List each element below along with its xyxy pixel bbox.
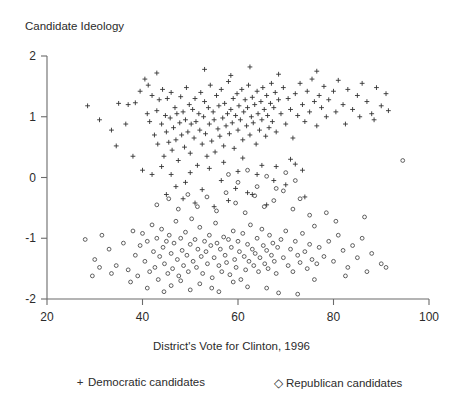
data-point: [146, 83, 151, 88]
data-point: [243, 211, 247, 215]
data-point: [122, 241, 126, 245]
data-point: [272, 199, 276, 203]
data-point: [334, 219, 338, 223]
series-plus: [85, 65, 391, 210]
data-point: [174, 219, 178, 223]
data-point: [140, 168, 145, 173]
data-point: [238, 250, 242, 254]
data-point: [241, 109, 246, 114]
data-point: [150, 172, 155, 177]
data-point: [217, 264, 221, 268]
data-point: [284, 171, 288, 175]
data-point: [302, 119, 307, 124]
data-point: [255, 172, 260, 177]
data-point: [199, 255, 203, 259]
data-point: [145, 286, 149, 290]
data-point: [141, 231, 145, 235]
y-tick-label: -2: [25, 292, 36, 306]
data-point: [241, 231, 245, 235]
data-point: [279, 111, 284, 116]
data-point: [148, 270, 152, 274]
data-point: [158, 255, 162, 259]
data-point: [110, 272, 114, 276]
data-point: [154, 71, 159, 76]
data-point: [312, 99, 317, 104]
data-point: [176, 207, 180, 211]
data-point: [150, 223, 154, 227]
data-point: [288, 107, 293, 112]
data-point: [160, 87, 165, 92]
data-point: [250, 192, 255, 197]
data-point: [216, 127, 221, 132]
data-point: [244, 268, 248, 272]
data-point: [183, 180, 188, 185]
data-point: [313, 224, 317, 228]
data-point: [147, 119, 152, 124]
data-point: [224, 191, 228, 195]
data-point: [228, 73, 233, 78]
data-point: [169, 284, 173, 288]
data-point: [365, 99, 370, 104]
data-point: [255, 89, 260, 94]
data-point: [291, 207, 295, 211]
data-point: [206, 105, 211, 110]
legend-item-democratic: +Democratic candidates: [74, 376, 205, 388]
data-point: [195, 163, 200, 168]
data-point: [220, 270, 224, 274]
data-point: [327, 239, 331, 243]
data-point: [90, 274, 94, 278]
data-point: [247, 259, 251, 263]
plus-marker-icon: +: [74, 376, 86, 388]
data-point: [224, 123, 229, 128]
data-point: [191, 259, 195, 263]
data-point: [163, 262, 167, 266]
data-point: [293, 91, 298, 96]
data-point: [286, 264, 290, 268]
data-point: [277, 291, 281, 295]
data-point: [274, 130, 279, 135]
data-point: [212, 204, 217, 209]
data-point: [176, 158, 181, 163]
data-point: [267, 125, 272, 130]
data-point: [360, 81, 365, 86]
data-point: [85, 103, 90, 108]
y-axis-title: Candidate Ideology: [25, 20, 124, 32]
data-point: [308, 242, 312, 246]
data-point: [157, 97, 162, 102]
data-point: [305, 89, 310, 94]
y-tick-label: 0: [29, 171, 36, 185]
x-tick-label: 20: [40, 310, 54, 324]
data-point: [357, 114, 362, 119]
data-point: [245, 190, 250, 195]
data-point: [262, 205, 266, 209]
data-point: [177, 274, 181, 278]
data-point: [249, 223, 253, 227]
data-point: [210, 286, 214, 290]
data-point: [263, 262, 267, 266]
x-axis-title: District's Vote for Clinton, 1996: [0, 340, 463, 352]
data-point: [257, 270, 261, 274]
data-point: [169, 90, 174, 95]
data-point: [155, 142, 160, 147]
data-point: [174, 137, 179, 142]
chart-figure: Candidate Ideology 210-1-220406080100 Di…: [0, 0, 463, 410]
data-point: [355, 256, 359, 260]
data-point: [239, 87, 244, 92]
data-point: [167, 233, 171, 237]
data-point: [227, 131, 232, 136]
data-point: [204, 250, 208, 254]
data-point: [274, 272, 278, 276]
data-point: [182, 145, 187, 150]
data-point: [234, 201, 238, 205]
data-point: [133, 100, 138, 105]
data-point: [276, 245, 280, 249]
data-point: [262, 107, 267, 112]
data-point: [223, 253, 227, 257]
circle-marker-icon: ◇: [272, 376, 284, 390]
data-point: [302, 195, 307, 200]
data-point: [273, 90, 278, 95]
data-point: [284, 229, 288, 233]
data-point: [250, 95, 255, 100]
data-point: [228, 273, 232, 277]
data-point: [153, 266, 157, 270]
